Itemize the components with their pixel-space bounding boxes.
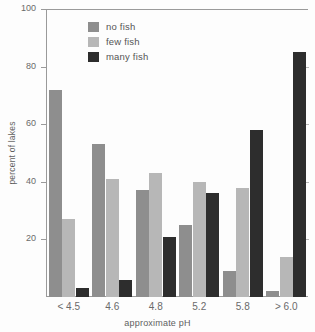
- bar-nofish-0: [49, 90, 62, 297]
- bar-group: [266, 9, 306, 297]
- y-tick-mark: [41, 124, 46, 125]
- legend-label: few fish: [106, 36, 140, 47]
- bar-group: [223, 9, 263, 297]
- chart-legend: no fishfew fishmany fish: [88, 19, 148, 64]
- y-tick-label: 40: [26, 176, 36, 186]
- bar-nofish-2: [136, 190, 149, 297]
- y-tick-label: 100: [21, 3, 36, 13]
- legend-swatch-few-fish: [88, 37, 99, 47]
- x-tick-label: 4.6: [105, 301, 119, 312]
- y-tick-mark: [41, 182, 46, 183]
- bar-fewfish-0: [62, 219, 75, 297]
- x-tick-label: 5.8: [236, 301, 250, 312]
- y-tick-label: 20: [26, 233, 36, 243]
- bars-layer: [47, 9, 308, 297]
- legend-swatch-many-fish: [88, 52, 99, 62]
- bar-manyfish-3: [206, 193, 219, 297]
- y-tick-label: 80: [26, 61, 36, 71]
- bar-fewfish-2: [149, 173, 162, 297]
- x-tick-label: > 6.0: [275, 301, 298, 312]
- bar-manyfish-4: [250, 130, 263, 297]
- bar-chart: percent of lakes approximate pH 20406080…: [0, 0, 315, 332]
- x-axis-title: approximate pH: [0, 318, 315, 328]
- bar-fewfish-1: [106, 179, 119, 297]
- bar-group: [49, 9, 89, 297]
- legend-swatch-no-fish: [88, 22, 99, 32]
- y-tick-mark: [41, 67, 46, 68]
- y-tick-mark: [41, 239, 46, 240]
- bar-fewfish-4: [236, 188, 249, 297]
- bar-group: [179, 9, 219, 297]
- bar-nofish-3: [179, 225, 192, 297]
- x-tick-label: 5.2: [192, 301, 206, 312]
- bar-manyfish-2: [163, 237, 176, 297]
- y-tick-label: 60: [26, 118, 36, 128]
- x-tick-label: < 4.5: [57, 301, 80, 312]
- legend-label: no fish: [106, 21, 135, 32]
- bar-nofish-4: [223, 271, 236, 297]
- bar-fewfish-3: [193, 182, 206, 297]
- bar-nofish-1: [92, 144, 105, 297]
- y-axis-title: percent of lakes: [7, 93, 17, 213]
- bar-manyfish-1: [119, 280, 132, 297]
- x-tick-label: 4.8: [149, 301, 163, 312]
- y-tick-mark: [41, 9, 46, 10]
- bar-manyfish-5: [293, 52, 306, 297]
- legend-item: no fish: [88, 19, 148, 34]
- legend-item: many fish: [88, 49, 148, 64]
- bar-fewfish-5: [280, 257, 293, 297]
- legend-label: many fish: [106, 51, 148, 62]
- bar-nofish-5: [266, 291, 279, 297]
- bar-manyfish-0: [76, 288, 89, 297]
- legend-item: few fish: [88, 34, 148, 49]
